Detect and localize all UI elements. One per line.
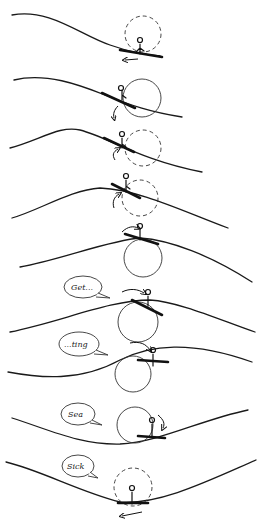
bubble-text: ...ting (64, 340, 88, 349)
speech-bubble-get: Get... (64, 276, 110, 298)
illustration-canvas: Get... ...ting Sea (0, 0, 259, 521)
panel-5 (20, 224, 252, 283)
bubble-text: Sea (68, 410, 83, 419)
panel-3 (10, 129, 202, 172)
panel-2 (14, 78, 182, 118)
bubble-text: Get... (71, 283, 93, 292)
bubble-text: Sick (67, 462, 85, 471)
panel-6: Get... (10, 276, 255, 342)
speech-bubble-ting: ...ting (59, 332, 108, 356)
panel-8: Sea (12, 403, 248, 444)
panel-1 (12, 14, 162, 60)
panel-4 (12, 174, 228, 229)
panel-7: ...ting (8, 332, 252, 392)
speech-bubble-sea: Sea (61, 403, 102, 425)
panel-9: Sick (6, 455, 256, 516)
speech-bubble-sick: Sick (62, 455, 98, 478)
